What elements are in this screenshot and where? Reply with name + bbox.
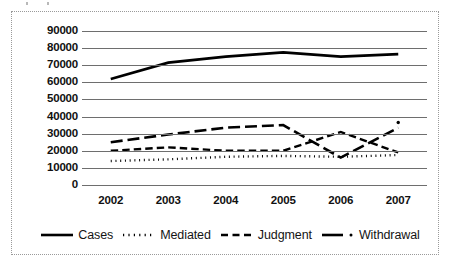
x-axis-tick-label: 2003 bbox=[138, 194, 198, 206]
gridline bbox=[82, 185, 427, 186]
y-axis-tick-label: 40000 bbox=[20, 111, 78, 122]
x-axis-tick-label: 2002 bbox=[81, 194, 141, 206]
annotation-marker-dot bbox=[397, 121, 400, 124]
legend-label: Cases bbox=[78, 228, 113, 242]
gridline bbox=[82, 134, 427, 135]
y-axis-tick-label: 80000 bbox=[20, 42, 78, 53]
gridline bbox=[82, 48, 427, 49]
legend-swatch-solid-icon bbox=[40, 230, 74, 240]
gridline bbox=[82, 168, 427, 169]
legend-label: Judgment bbox=[258, 228, 312, 242]
x-axis-tick-label: 2007 bbox=[368, 194, 428, 206]
legend-swatch-dashdot-icon bbox=[321, 230, 355, 240]
x-axis-tick-label: 2004 bbox=[196, 194, 256, 206]
legend-swatch-dashed-icon bbox=[220, 230, 254, 240]
series-layer bbox=[82, 31, 427, 185]
legend-item-mediated[interactable]: Mediated bbox=[122, 228, 211, 242]
legend-label: Withdrawal bbox=[359, 228, 420, 242]
gridline bbox=[82, 31, 427, 32]
y-axis-tick-label: 90000 bbox=[20, 25, 78, 36]
y-axis-tick-label: 70000 bbox=[20, 59, 78, 70]
y-axis-tick-label: 10000 bbox=[20, 162, 78, 173]
gridline bbox=[82, 99, 427, 100]
plot-area bbox=[82, 31, 427, 185]
y-axis-tick-label: 0 bbox=[20, 179, 78, 190]
legend-label: Mediated bbox=[160, 228, 211, 242]
y-axis-tick-label: 20000 bbox=[20, 145, 78, 156]
legend-item-judgment[interactable]: Judgment bbox=[220, 228, 312, 242]
y-axis: 9000080000700006000050000400003000020000… bbox=[20, 31, 78, 185]
y-axis-tick-label: 30000 bbox=[20, 128, 78, 139]
gridline bbox=[82, 82, 427, 83]
x-axis-tick-label: 2006 bbox=[311, 194, 371, 206]
series-line-withdrawal bbox=[111, 125, 399, 158]
chart-legend: CasesMediatedJudgmentWithdrawal bbox=[30, 224, 430, 246]
cropped-title-artifacts bbox=[0, 0, 451, 10]
legend-item-cases[interactable]: Cases bbox=[40, 228, 113, 242]
legend-item-withdrawal[interactable]: Withdrawal bbox=[321, 228, 420, 242]
y-axis-tick-label: 60000 bbox=[20, 76, 78, 87]
chart-container: 9000080000700006000050000400003000020000… bbox=[11, 11, 439, 255]
gridline bbox=[82, 151, 427, 152]
legend-swatch-dotted-icon bbox=[122, 230, 156, 240]
y-axis-tick-label: 50000 bbox=[20, 93, 78, 104]
gridline bbox=[82, 65, 427, 66]
x-axis: 200220032004200520062007 bbox=[82, 194, 427, 210]
series-line-mediated bbox=[111, 155, 399, 161]
x-axis-tick-label: 2005 bbox=[253, 194, 313, 206]
gridline bbox=[82, 117, 427, 118]
